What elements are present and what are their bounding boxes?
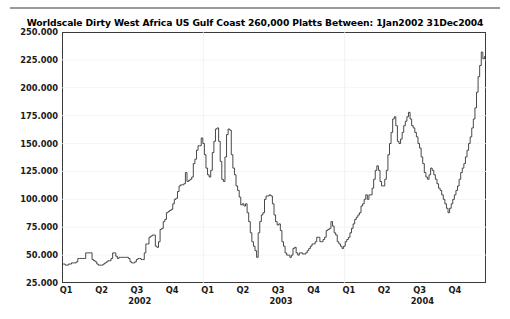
x-tick-label: Q4 bbox=[448, 285, 461, 295]
x-tick-label: Q2 bbox=[95, 285, 108, 295]
x-tick-label: Q2 bbox=[378, 285, 391, 295]
plot-area bbox=[62, 32, 486, 283]
x-tick-label: Q4 bbox=[166, 285, 179, 295]
price-series-line bbox=[62, 52, 486, 265]
x-tick-label: Q1 bbox=[342, 285, 355, 295]
x-axis-year-label: 2002 bbox=[128, 296, 151, 306]
x-tick-label: Q3 bbox=[413, 285, 426, 295]
x-axis-year-label: 2003 bbox=[270, 296, 293, 306]
x-tick-label: Q1 bbox=[60, 285, 73, 295]
x-tick-label: Q4 bbox=[307, 285, 320, 295]
x-tick-label: Q2 bbox=[236, 285, 249, 295]
x-tick-label: Q1 bbox=[201, 285, 214, 295]
x-axis-year-label: 2004 bbox=[411, 296, 434, 306]
x-tick-label: Q3 bbox=[272, 285, 285, 295]
chart-page: Worldscale Dirty West Africa US Gulf Coa… bbox=[0, 0, 510, 319]
chart-svg bbox=[62, 32, 486, 283]
x-tick-label: Q3 bbox=[130, 285, 143, 295]
